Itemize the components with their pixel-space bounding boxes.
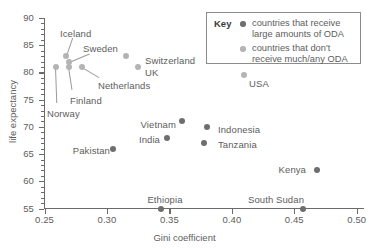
y-tick-label: 85 [14, 39, 34, 50]
point-label-switzerland: Switzerland [145, 55, 195, 66]
y-tick [39, 45, 44, 46]
point-label-netherlands: Netherlands [98, 80, 150, 91]
y-tick [39, 72, 44, 73]
y-minor-tick [41, 40, 44, 41]
y-minor-tick [41, 176, 44, 177]
y-tick [39, 154, 44, 155]
y-minor-tick [41, 83, 44, 84]
data-point-finland [66, 64, 72, 70]
point-label-sweden: Sweden [83, 43, 118, 54]
data-point-usa [241, 72, 247, 78]
legend-label-1-line1: countries that receive [252, 18, 340, 29]
data-point-norway [53, 64, 59, 70]
data-point-kenya [314, 167, 320, 173]
y-minor-tick [41, 51, 44, 52]
y-minor-tick [41, 138, 44, 139]
data-point-vietnam [179, 118, 185, 124]
point-label-usa: USA [249, 78, 269, 89]
point-label-norway: Norway [47, 108, 80, 119]
y-minor-tick [41, 160, 44, 161]
point-label-tanzania: Tanzania [218, 139, 257, 150]
data-point-switzerland [123, 53, 129, 59]
y-minor-tick [41, 56, 44, 57]
legend-title: Key [214, 18, 231, 29]
y-tick-label: 55 [14, 203, 34, 214]
x-tick-label: 0.40 [222, 214, 241, 225]
point-label-ethiopia: Ethiopia [147, 194, 182, 205]
data-point-india [164, 135, 170, 141]
y-tick-label: 60 [14, 175, 34, 186]
point-label-south-sudan: South Sudan [248, 194, 304, 205]
y-minor-tick [41, 149, 44, 150]
data-point-ethiopia [158, 206, 164, 212]
x-tick-label: 0.45 [285, 214, 304, 225]
y-axis-title: life expectancy [7, 64, 18, 160]
y-minor-tick [41, 23, 44, 24]
scatter-chart: 0.250.300.350.400.450.505560657075808590… [0, 0, 369, 248]
legend-marker-1 [240, 21, 246, 27]
data-point-netherlands [79, 64, 85, 70]
legend-label-1-line2: large amounts of ODA [252, 29, 344, 40]
data-point-indonesia [204, 124, 210, 130]
y-minor-tick [41, 143, 44, 144]
data-point-uk [135, 64, 141, 70]
legend-label-2-line2: receive much/any ODA [252, 54, 348, 65]
y-tick [39, 18, 44, 19]
x-axis-title: Gini coefficient [0, 232, 369, 243]
point-label-finland: Finland [70, 95, 102, 106]
legend-marker-2 [240, 46, 246, 52]
y-minor-tick [41, 192, 44, 193]
y-minor-tick [41, 165, 44, 166]
data-point-pakistan [110, 146, 116, 152]
y-minor-tick [41, 116, 44, 117]
y-minor-tick [41, 34, 44, 35]
point-label-indonesia: Indonesia [218, 124, 260, 135]
legend-label-2-line1: countries that don't [252, 43, 330, 54]
point-label-vietnam: Vietnam [141, 119, 176, 130]
y-minor-tick [41, 29, 44, 30]
y-tick-label: 90 [14, 12, 34, 23]
x-axis-line [44, 208, 364, 209]
point-label-india: India [139, 134, 160, 145]
y-minor-tick [41, 170, 44, 171]
point-label-kenya: Kenya [279, 164, 306, 175]
y-minor-tick [41, 203, 44, 204]
legend-box: Key countries that receivelarge amounts … [206, 12, 361, 64]
data-point-tanzania [201, 140, 207, 146]
y-minor-tick [41, 78, 44, 79]
y-tick [39, 181, 44, 182]
x-tick-label: 0.50 [347, 214, 366, 225]
point-label-iceland: Iceland [60, 28, 91, 39]
y-axis-line [44, 18, 45, 209]
leader-line-finland [68, 67, 73, 90]
leader-line-sweden [69, 53, 90, 62]
y-minor-tick [41, 111, 44, 112]
y-tick [39, 127, 44, 128]
y-minor-tick [41, 105, 44, 106]
y-minor-tick [41, 132, 44, 133]
y-minor-tick [41, 187, 44, 188]
x-tick-label: 0.35 [160, 214, 179, 225]
point-label-pakistan: Pakistan [73, 145, 110, 156]
y-tick [39, 100, 44, 101]
y-minor-tick [41, 89, 44, 90]
y-minor-tick [41, 121, 44, 122]
y-minor-tick [41, 62, 44, 63]
data-point-south-sudan [300, 206, 306, 212]
y-minor-tick [41, 94, 44, 95]
point-label-uk: UK [145, 67, 158, 78]
y-minor-tick [41, 67, 44, 68]
x-tick-label: 0.30 [97, 214, 116, 225]
leader-line-norway [55, 67, 57, 103]
y-tick [39, 209, 44, 210]
x-tick-label: 0.25 [35, 214, 54, 225]
y-minor-tick [41, 198, 44, 199]
